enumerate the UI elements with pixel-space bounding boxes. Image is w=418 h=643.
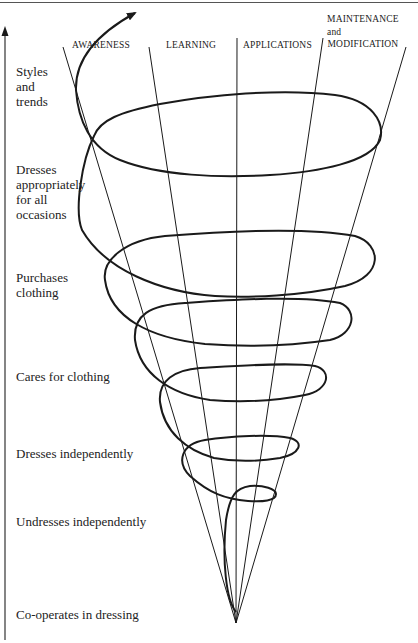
cone-spiral-diagram	[0, 0, 418, 643]
stage-label-dresses: Dresses independently	[16, 446, 133, 461]
stage-label-cares: Cares for clothing	[16, 369, 110, 384]
up-arrow-icon	[2, 26, 9, 36]
column-label-maintenance-line2: and	[327, 26, 399, 39]
column-label-applications: APPLICATIONS	[243, 40, 312, 50]
column-label-awareness: AWARENESS	[72, 40, 130, 50]
stage-label-cooperates: Co-operates in dressing	[16, 607, 139, 622]
stage-occasions-line4: occasions	[16, 207, 85, 222]
stage-label-styles: Styles and trends	[16, 64, 48, 109]
column-label-maintenance-line1: MAINTENANCE	[327, 13, 399, 26]
stage-label-undresses: Undresses independently	[16, 514, 146, 529]
column-label-learning: LEARNING	[166, 40, 216, 50]
stage-styles-line3: trends	[16, 94, 48, 109]
stage-styles-line1: Styles	[16, 64, 48, 79]
stage-occasions-line2: appropriately	[16, 177, 85, 192]
stage-label-purchases: Purchases clothing	[16, 270, 68, 300]
radial-line-applications	[236, 38, 237, 623]
radial-line-maintenance	[236, 38, 323, 623]
stage-purchases-line2: clothing	[16, 285, 68, 300]
stage-label-occasions: Dresses appropriately for all occasions	[16, 162, 85, 222]
stage-occasions-line3: for all	[16, 192, 85, 207]
stage-occasions-line1: Dresses	[16, 162, 85, 177]
stage-purchases-line1: Purchases	[16, 270, 68, 285]
cone-radial-lines	[63, 38, 406, 623]
column-label-maintenance-line3: MODIFICATION	[327, 38, 399, 51]
stage-styles-line2: and	[16, 79, 48, 94]
column-label-maintenance: MAINTENANCE and MODIFICATION	[327, 13, 399, 51]
